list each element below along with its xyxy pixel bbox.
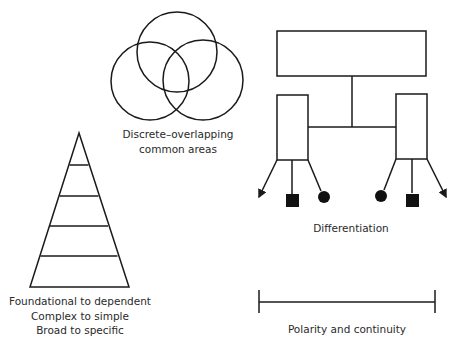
- venn-circle-right: [163, 40, 243, 120]
- pyramid-label-line2: Complex to simple: [0, 309, 160, 324]
- hierarchy-right-box: [396, 94, 427, 159]
- polarity-line: [259, 290, 435, 313]
- left-square-node: [286, 194, 299, 207]
- venn-label-line2: common areas: [117, 142, 239, 157]
- hierarchy-top-box: [277, 31, 426, 76]
- differentiation-label: Differentiation: [300, 221, 402, 236]
- venn-label-line1: Discrete–overlapping: [117, 127, 239, 142]
- hierarchy-left-box: [277, 95, 308, 160]
- hierarchy-diagram: [259, 31, 446, 197]
- pyramid-diagram: [30, 133, 129, 287]
- right-circle-node: [375, 190, 387, 202]
- polarity-label: Polarity and continuity: [277, 322, 417, 337]
- pyramid-label-line3: Broad to specific: [0, 323, 160, 338]
- pyramid-label: Foundational to dependent Complex to sim…: [0, 294, 160, 338]
- right-square-node: [406, 194, 419, 207]
- left-circle-node: [318, 191, 330, 203]
- pyramid-label-line1: Foundational to dependent: [0, 294, 160, 309]
- venn-diagram: [111, 12, 243, 120]
- venn-label: Discrete–overlapping common areas: [117, 127, 239, 156]
